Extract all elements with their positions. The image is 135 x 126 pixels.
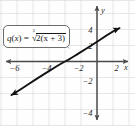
paren-close: ) [19, 33, 22, 43]
y-axis-label: y [100, 5, 105, 15]
x-tick-label-neg6: −6 [10, 63, 21, 73]
equation-callout-box: q(x) = 3√2(x + 3) [3, 25, 70, 48]
radical-index: 3 [33, 29, 35, 34]
y-tick-label-neg2: −2 [83, 76, 94, 86]
graph-canvas: x y −6 −4 −2 2 4 2 −2 −4 [0, 0, 135, 126]
equation-text: q(x) = 3√2(x + 3) [7, 33, 66, 43]
x-axis-label: x [123, 62, 128, 72]
cube-root-function-figure: x y −6 −4 −2 2 4 2 −2 −4 q(x) = 3√2(x + … [0, 0, 135, 126]
equals-sign: = [24, 33, 29, 43]
radical-expression: 3√2(x + 3) [31, 33, 66, 43]
y-tick-label-neg4: −4 [83, 108, 94, 118]
radicand: 2(x + 3) [36, 33, 66, 43]
x-tick-label-pos2: 2 [114, 63, 119, 73]
x-tick-label-neg2: −2 [74, 63, 85, 73]
